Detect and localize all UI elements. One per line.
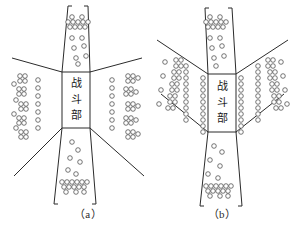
fragment-circle — [76, 62, 81, 67]
fragment-circle — [159, 88, 164, 93]
fragment-group-top-cone-sparse — [208, 36, 227, 69]
fragment-group-left-fan-dense-clusters — [12, 74, 29, 140]
fragment-circle — [75, 180, 80, 185]
fragment-circle — [219, 184, 224, 189]
fragment-circle — [65, 180, 70, 185]
fragment-circle — [14, 98, 19, 103]
fragment-circle — [19, 107, 24, 112]
fragment-circle — [221, 189, 226, 194]
fragment-circle — [256, 64, 261, 69]
fragment-circle — [201, 130, 206, 135]
fragment-circle — [110, 102, 115, 107]
fragment-circle — [60, 180, 65, 185]
fragment-spray-outline — [236, 40, 288, 74]
fragment-circle — [175, 88, 180, 93]
fragment-circle — [229, 184, 234, 189]
fragment-circle — [163, 60, 168, 65]
fragment-circle — [136, 132, 141, 137]
fragment-circle — [131, 135, 136, 140]
fragment-circle — [82, 190, 87, 195]
fragment-circle — [218, 15, 223, 20]
fragment-circle — [80, 15, 85, 20]
fragment-circle — [174, 58, 179, 63]
warhead-label-char: 战 — [217, 80, 228, 93]
fragment-circle — [206, 25, 211, 30]
fragment-circle — [214, 20, 219, 25]
fragment-circle — [22, 87, 27, 92]
fragment-circle — [36, 86, 41, 91]
fragment-circle — [201, 100, 206, 105]
fragment-circle — [36, 110, 41, 115]
fragment-circle — [19, 130, 24, 135]
fragment-circle — [36, 78, 41, 83]
fragment-circle — [64, 190, 69, 195]
fragment-circle — [129, 87, 134, 92]
fragment-circle — [126, 102, 131, 107]
fragment-circle — [256, 118, 261, 123]
fragment-circle — [177, 70, 182, 75]
fragment-circle — [18, 79, 23, 84]
fragment-circle — [24, 102, 29, 107]
panel-a: 战斗部（a） — [12, 6, 144, 220]
fragment-circle — [221, 25, 226, 30]
fragment-spray-outline — [54, 128, 62, 204]
fragment-circle — [77, 185, 82, 190]
fragment-circle — [74, 56, 79, 61]
fragment-circle — [256, 76, 261, 81]
fragment-circle — [256, 70, 261, 75]
fragment-circle — [204, 184, 209, 189]
fragment-circle — [209, 20, 214, 25]
fragment-circle — [131, 102, 136, 107]
fragment-circle — [214, 184, 219, 189]
fragment-circle — [256, 106, 261, 111]
fragment-circle — [134, 118, 139, 123]
fragment-circle — [19, 135, 24, 140]
fragment-circle — [14, 126, 19, 131]
fragment-circle — [168, 100, 173, 105]
fragment-circle — [175, 82, 180, 87]
fragment-circle — [239, 112, 244, 117]
fragment-circle — [172, 76, 177, 81]
fragment-circle — [173, 94, 178, 99]
fragment-circle — [275, 82, 280, 87]
warhead-fragmentation-diagram: 战斗部（a）战斗部（b） — [0, 0, 297, 235]
fragment-circle — [283, 88, 288, 93]
fragment-circle — [22, 116, 27, 121]
fragment-circle — [216, 25, 221, 30]
fragment-circle — [70, 180, 75, 185]
fragment-group-left-mid-column — [184, 64, 189, 123]
warhead-label-char: 斗 — [217, 96, 228, 109]
fragment-circle — [172, 70, 177, 75]
fragment-circle — [210, 46, 215, 51]
fragment-circle — [78, 25, 83, 30]
fragment-circle — [18, 74, 23, 79]
fragment-circle — [170, 88, 175, 93]
fragment-circle — [184, 82, 189, 87]
fragment-circle — [134, 90, 139, 95]
fragment-circle — [129, 92, 134, 97]
warhead-label-char: 战 — [71, 77, 82, 90]
fragment-circle — [82, 44, 87, 49]
fragment-circle — [70, 36, 75, 41]
fragment-circle — [68, 25, 73, 30]
fragment-circle — [136, 76, 141, 81]
fragment-circle — [171, 106, 176, 111]
fragment-circle — [220, 150, 225, 155]
fragment-circle — [218, 36, 223, 41]
fragment-spray-outline — [228, 8, 236, 74]
fragment-circle — [74, 172, 79, 177]
fragment-circle — [129, 121, 134, 126]
fragment-circle — [66, 20, 71, 25]
fragment-circle — [211, 189, 216, 194]
fragment-circle — [239, 118, 244, 123]
fragment-circle — [220, 44, 225, 49]
fragment-circle — [272, 100, 277, 105]
fragment-spray-outline — [157, 40, 208, 74]
fragment-circle — [78, 160, 83, 165]
fragment-circle — [124, 87, 129, 92]
fragment-group-left-outer-clusters — [157, 58, 184, 111]
fragment-circle — [279, 106, 284, 111]
fragment-circle — [168, 94, 173, 99]
fragment-circle — [239, 76, 244, 81]
fragment-circle — [201, 94, 206, 99]
